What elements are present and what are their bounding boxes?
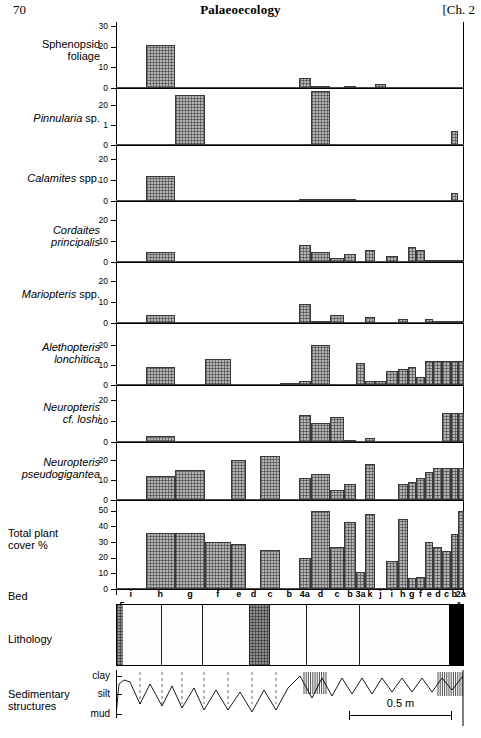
bar <box>451 361 458 385</box>
row-label: foliage <box>0 50 100 63</box>
bar <box>425 472 433 500</box>
bar <box>386 371 398 385</box>
row-label: Mariopteris spp. <box>0 288 100 301</box>
row-label: Alethopteris <box>0 341 100 354</box>
row-label: pseudogigantea <box>0 468 100 481</box>
bar <box>398 484 408 500</box>
running-title: Palaeoecology <box>0 2 481 18</box>
bed-label: 4a <box>298 589 312 600</box>
bar <box>386 561 398 589</box>
bed-label: b <box>282 589 296 600</box>
bar <box>416 377 425 385</box>
y-tick-mark <box>111 526 116 527</box>
y-tick-mark <box>111 558 116 559</box>
panel-mariopteris-spp <box>116 273 464 323</box>
bed-label: f <box>211 589 225 600</box>
panel-calamites-spp <box>116 151 464 201</box>
row-label: lonchitica <box>0 353 100 366</box>
y-tick-label: 10 <box>86 569 108 577</box>
y-tick-label: 30 <box>86 22 108 30</box>
lithology-unit-sandstone <box>117 605 161 665</box>
row-label: principalis <box>0 236 100 249</box>
scalebar-line <box>349 715 452 716</box>
y-tick-mark <box>111 511 116 512</box>
bar <box>451 534 458 589</box>
bar <box>330 417 344 442</box>
y-tick-label: 0 <box>86 258 108 266</box>
lithology-boundary <box>202 605 203 665</box>
bar <box>398 519 408 589</box>
bar <box>458 511 464 589</box>
y-tick-label: 20 <box>86 553 108 561</box>
y-tick-mark <box>111 421 116 422</box>
y-tick-label: 20 <box>86 277 108 285</box>
bar <box>260 550 279 589</box>
bar <box>416 250 425 263</box>
bar <box>146 176 176 201</box>
y-tick-mark <box>111 302 116 303</box>
y-tick-label: 20 <box>86 155 108 163</box>
bar <box>442 468 450 500</box>
lithology-boundary <box>249 605 250 665</box>
bar <box>146 45 176 88</box>
bar <box>231 460 247 500</box>
bar <box>330 547 344 589</box>
y-tick-mark <box>111 180 116 181</box>
y-tick-mark <box>111 67 116 68</box>
scalebar-label: 0.5 m <box>349 697 452 709</box>
bar <box>175 533 205 589</box>
bed-label: h <box>153 589 167 600</box>
y-tick-mark <box>111 460 116 461</box>
bar <box>311 511 330 589</box>
row-label: Neuropteris <box>0 456 100 469</box>
bar <box>458 468 464 500</box>
y-tick-label: 0 <box>86 84 108 92</box>
bar <box>299 558 311 589</box>
bar <box>365 464 375 500</box>
row-label: Neuropteris <box>0 401 100 414</box>
lithology-unit-sandstone <box>161 605 202 665</box>
bar <box>146 533 176 589</box>
taxon-rank: sp. <box>82 112 100 124</box>
lithology-unit-sandstone <box>359 605 449 665</box>
row-label: Sphenopsid <box>0 38 100 51</box>
y-tick-mark <box>111 125 116 126</box>
y-tick-label: 0 <box>86 496 108 504</box>
bed-label: c <box>330 589 344 600</box>
lithology-unit-siltstone <box>249 605 269 665</box>
bar <box>458 413 464 442</box>
bar <box>408 578 416 589</box>
bar <box>451 468 458 500</box>
panel-neuropteris-cf-loshi <box>116 392 464 442</box>
bar <box>231 544 247 589</box>
bed-label: i <box>124 589 138 600</box>
y-tick-label: 20 <box>86 101 108 109</box>
bar <box>299 245 311 262</box>
y-tick-mark <box>111 241 116 242</box>
bar <box>398 369 408 385</box>
panel-separator <box>116 385 464 386</box>
row-label: Total plant <box>8 527 108 540</box>
bar <box>299 415 311 442</box>
taxon-rank: spp. <box>76 288 100 300</box>
bar <box>365 250 375 263</box>
y-tick-label: 0 <box>86 319 108 327</box>
bar <box>175 95 205 145</box>
row-label: cover % <box>8 539 108 552</box>
row-label: Cordaites <box>0 224 100 237</box>
bar <box>451 413 458 442</box>
bar <box>344 522 356 589</box>
lithology-unit-coal <box>449 605 463 665</box>
panel-sphenopsid-foliage <box>116 26 464 88</box>
bar <box>311 345 330 385</box>
row-label: Lithology <box>8 633 108 646</box>
bed-label-row: 5ihgfedcb4adcb3akjihgfedcb2a1 <box>116 589 464 601</box>
panel-alethopteris-lonchitica <box>116 333 464 385</box>
y-tick-label: 50 <box>86 506 108 514</box>
bar <box>260 456 279 500</box>
bar <box>146 315 176 323</box>
row-label: Calamites spp. <box>0 172 100 185</box>
panel-total-plant-cover <box>116 503 464 589</box>
panel-separator <box>116 262 464 263</box>
bar <box>442 551 450 589</box>
